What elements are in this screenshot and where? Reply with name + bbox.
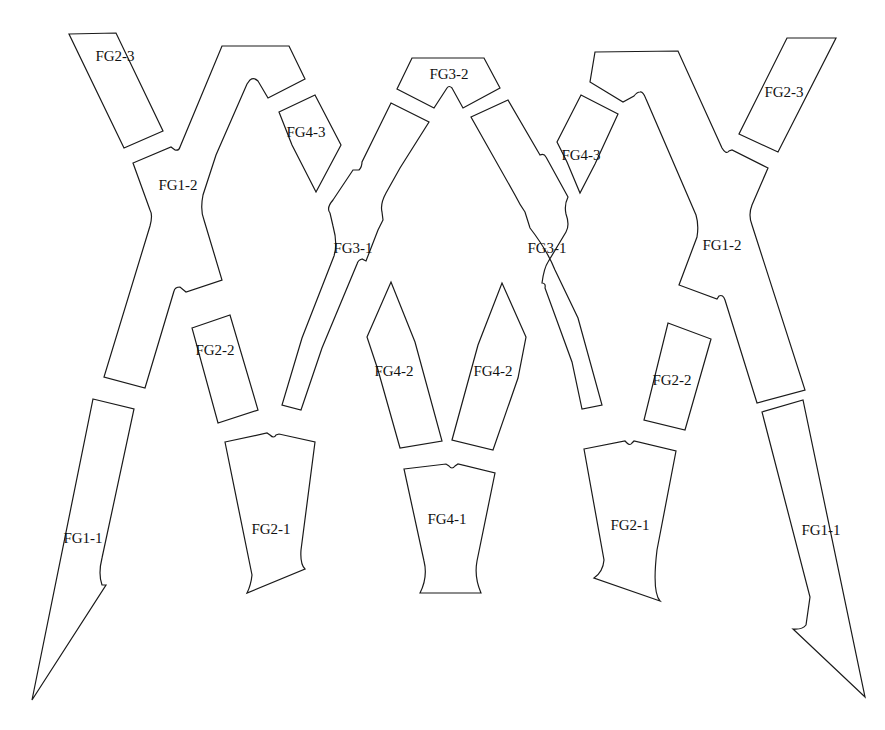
piece-fg1-1-left [32,399,134,700]
label-fg1-2-right: FG1-2 [702,237,741,253]
label-fg1-1-right: FG1-1 [801,522,840,538]
label-fg2-1-left: FG2-1 [251,521,290,537]
label-fg1-1-left: FG1-1 [63,530,102,546]
piece-fg2-2-left [192,315,258,423]
label-fg3-1-left: FG3-1 [333,240,372,256]
piece-fg1-1-right [762,400,865,697]
label-fg4-1: FG4-1 [427,511,466,527]
label-fg3-1-right: FG3-1 [527,240,566,256]
pattern-diagram: FG2-3 FG1-2 FG4-3 FG3-2 FG3-1 FG3-1 FG4-… [0,0,885,730]
label-fg4-2-right: FG4-2 [473,363,512,379]
piece-fg4-1 [404,464,495,593]
label-fg4-2-left: FG4-2 [374,363,413,379]
label-fg3-2: FG3-2 [429,66,468,82]
label-fg2-3-right: FG2-3 [764,84,803,100]
piece-fg2-1-left [225,433,315,593]
piece-fg4-3-left [279,95,341,192]
label-fg1-2-left: FG1-2 [158,177,197,193]
label-fg4-3-left: FG4-3 [286,124,325,140]
label-fg4-3-right: FG4-3 [561,147,600,163]
piece-fg4-3-right [557,95,618,193]
label-fg2-1-right: FG2-1 [610,517,649,533]
label-fg2-2-left: FG2-2 [195,342,234,358]
label-fg2-2-right: FG2-2 [652,372,691,388]
label-fg2-3-left: FG2-3 [95,48,134,64]
